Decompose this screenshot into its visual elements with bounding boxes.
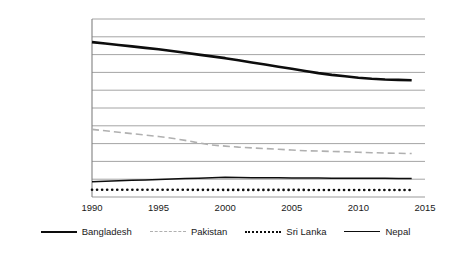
legend-item-bangladesh[interactable]: Bangladesh bbox=[41, 227, 132, 237]
legend-item-nepal[interactable]: Nepal bbox=[344, 227, 410, 237]
legend-swatch-icon bbox=[41, 227, 77, 237]
x-axis-tick-label: 2015 bbox=[405, 203, 445, 213]
x-axis-tick-label: 2010 bbox=[338, 203, 378, 213]
legend-label: Nepal bbox=[385, 227, 410, 237]
series-line-bangladesh bbox=[92, 42, 412, 80]
legend-swatch-icon bbox=[344, 227, 380, 237]
x-axis-tick-label: 1990 bbox=[72, 203, 112, 213]
chart-legend: BangladeshPakistanSri LankaNepal bbox=[0, 222, 451, 242]
legend-label: Sri Lanka bbox=[286, 227, 326, 237]
data-series-group bbox=[92, 42, 412, 190]
legend-label: Pakistan bbox=[191, 227, 227, 237]
legend-label: Bangladesh bbox=[82, 227, 132, 237]
legend-swatch-icon bbox=[150, 227, 186, 237]
legend-item-pakistan[interactable]: Pakistan bbox=[150, 227, 227, 237]
line-chart: 5,000,0004,500,0004,000,0003,500,0003,00… bbox=[0, 0, 451, 254]
x-axis-tick-label: 1995 bbox=[139, 203, 179, 213]
x-axis-tick-label: 2000 bbox=[205, 203, 245, 213]
legend-item-sri-lanka[interactable]: Sri Lanka bbox=[245, 227, 326, 237]
plot-area bbox=[0, 0, 451, 254]
legend-swatch-icon bbox=[245, 227, 281, 237]
x-axis-tick-label: 2005 bbox=[272, 203, 312, 213]
gridlines bbox=[92, 19, 425, 197]
series-line-pakistan bbox=[92, 129, 412, 153]
